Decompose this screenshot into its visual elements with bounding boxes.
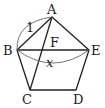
pentagon-diagram: A B C D E F 1 x	[0, 0, 105, 108]
vertex-label-A: A	[46, 2, 57, 17]
measure-label-BE: x	[46, 55, 54, 70]
vertex-label-E: E	[91, 43, 101, 58]
vertex-label-D: D	[73, 92, 83, 107]
diagram-canvas: A B C D E F 1 x	[0, 0, 105, 108]
measure-label-AB: 1	[26, 20, 34, 35]
intersection-label-F: F	[50, 35, 59, 50]
vertex-label-C: C	[22, 92, 32, 107]
vertex-label-B: B	[3, 43, 13, 58]
